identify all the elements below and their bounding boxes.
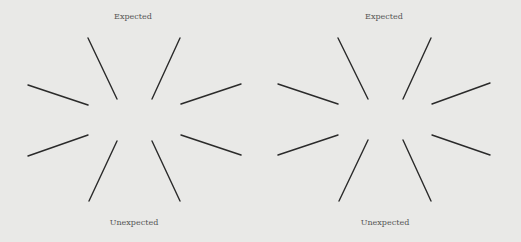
right-lower-left-shallow-line	[278, 135, 338, 155]
left-lower-left-shallow-line	[28, 135, 88, 156]
right-lower-left-steep-line	[339, 140, 368, 201]
right-upper-left-shallow-line	[278, 84, 338, 104]
right-panel-lines	[278, 38, 490, 201]
left-lower-right-shallow-line	[181, 135, 241, 155]
left-lower-left-steep-line	[89, 141, 117, 201]
right-lower-right-steep-line	[403, 140, 431, 201]
left-expected-label: Expected	[114, 13, 152, 21]
left-upper-right-shallow-line	[181, 84, 241, 104]
radial-lines-figure: Expected Unexpected Expected Unexpected	[0, 0, 521, 242]
right-lower-right-shallow-line	[432, 135, 490, 155]
right-upper-right-shallow-line	[432, 83, 490, 104]
left-upper-left-shallow-line	[28, 85, 88, 105]
right-unexpected-label: Unexpected	[361, 219, 410, 227]
left-unexpected-label: Unexpected	[110, 219, 159, 227]
right-expected-label: Expected	[365, 13, 403, 21]
right-upper-left-steep-line	[338, 38, 368, 99]
line-diagram	[0, 0, 521, 242]
left-panel-lines	[28, 38, 241, 201]
left-upper-left-steep-line	[88, 38, 117, 99]
left-lower-right-steep-line	[152, 141, 180, 201]
right-upper-right-steep-line	[403, 38, 431, 99]
left-upper-right-steep-line	[152, 38, 180, 99]
